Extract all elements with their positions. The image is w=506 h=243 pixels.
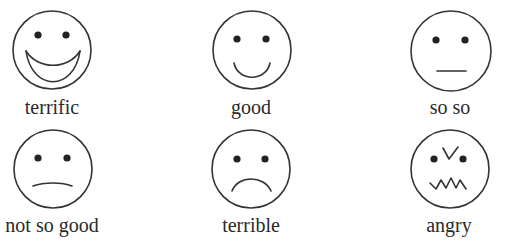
angry-face-icon: [411, 130, 489, 208]
face-label-so-so: so so: [430, 97, 471, 117]
good-face-icon: [213, 11, 291, 89]
face-label-good: good: [231, 97, 271, 117]
emotion-faces-canvas: [0, 0, 506, 243]
face-label-not-so-good: not so good: [5, 215, 98, 235]
so-so-face-icon: [411, 11, 491, 91]
not-so-good-face-icon: [14, 130, 92, 208]
face-label-terrific: terrific: [25, 97, 79, 117]
terrible-face-icon: [212, 130, 290, 208]
face-label-angry: angry: [426, 215, 472, 235]
terrific-face-icon: [13, 11, 91, 89]
face-label-terrible: terrible: [222, 215, 280, 235]
